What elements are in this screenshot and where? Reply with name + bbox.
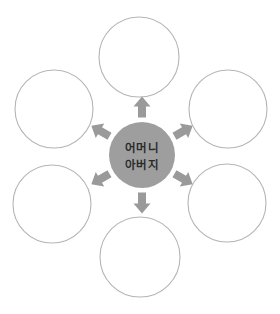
- center-node[interactable]: [109, 122, 175, 188]
- arrow-down[interactable]: [134, 193, 151, 214]
- outer-node-bottom-left[interactable]: [13, 165, 91, 243]
- arrow-up[interactable]: [134, 97, 151, 118]
- outer-node-top-left[interactable]: [15, 70, 93, 148]
- outer-node-bottom[interactable]: [100, 217, 180, 297]
- outer-node-bottom-right[interactable]: [188, 164, 266, 242]
- outer-node-top-right[interactable]: [189, 70, 267, 148]
- outer-node-top[interactable]: [99, 17, 179, 97]
- diagram-canvas: 어머니 아버지: [0, 0, 280, 314]
- radial-diagram: 어머니 아버지: [0, 0, 280, 314]
- arrow-down-left[interactable]: [87, 166, 114, 191]
- center-node-label-line-1: 어머니: [125, 141, 159, 155]
- center-node-label-line-2: 아버지: [125, 158, 159, 172]
